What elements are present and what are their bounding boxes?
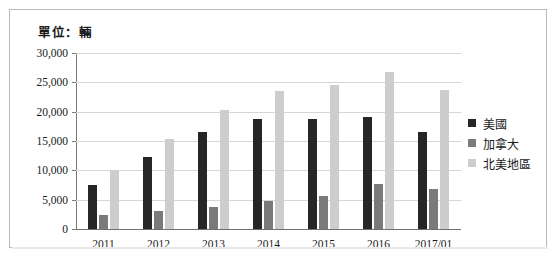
bar bbox=[198, 132, 207, 229]
y-axis-tick bbox=[72, 112, 76, 113]
y-axis-tick bbox=[72, 229, 76, 230]
bar-group: 2016 bbox=[363, 53, 394, 229]
chart-legend: 美國加拿大北美地區 bbox=[468, 114, 531, 174]
bar bbox=[88, 185, 97, 229]
legend-swatch-icon bbox=[468, 139, 476, 147]
legend-item: 加拿大 bbox=[468, 134, 531, 152]
x-axis-label: 2017/01 bbox=[399, 238, 469, 250]
bar-group: 2017/01 bbox=[418, 53, 449, 229]
unit-label: 單位：輛 bbox=[38, 22, 92, 41]
bar-group: 2014 bbox=[253, 53, 284, 229]
y-axis-tick bbox=[72, 53, 76, 54]
y-axis-label: 30,000 bbox=[36, 47, 68, 59]
bar bbox=[385, 72, 394, 229]
bar bbox=[319, 196, 328, 229]
legend-label: 美國 bbox=[483, 115, 507, 132]
bar-group: 2015 bbox=[308, 53, 339, 229]
bar-group: 2011 bbox=[88, 53, 119, 229]
bar bbox=[154, 211, 163, 229]
legend-item: 美國 bbox=[468, 114, 531, 132]
bar bbox=[165, 139, 174, 229]
y-axis-tick bbox=[72, 170, 76, 171]
bar bbox=[275, 91, 284, 229]
y-axis-label: 10,000 bbox=[36, 164, 68, 176]
y-axis-tick bbox=[72, 200, 76, 201]
bar-group: 2012 bbox=[143, 53, 174, 229]
bar bbox=[429, 189, 438, 229]
y-axis-label: 5,000 bbox=[42, 194, 68, 206]
bar bbox=[209, 207, 218, 229]
bar bbox=[363, 117, 372, 229]
legend-item: 北美地區 bbox=[468, 154, 531, 172]
bar bbox=[143, 157, 152, 229]
bar bbox=[253, 119, 262, 229]
bar bbox=[99, 215, 108, 229]
bar-group: 2013 bbox=[198, 53, 229, 229]
y-axis-label: 15,000 bbox=[36, 135, 68, 147]
y-axis-label: 20,000 bbox=[36, 106, 68, 118]
y-axis-tick bbox=[72, 141, 76, 142]
y-axis-label: 0 bbox=[62, 223, 68, 235]
chart-frame: 單位：輛 30,00025,00020,00015,00010,0005,000… bbox=[9, 9, 547, 248]
bar bbox=[374, 184, 383, 229]
legend-swatch-icon bbox=[468, 119, 476, 127]
bar bbox=[110, 170, 119, 229]
legend-label: 北美地區 bbox=[483, 155, 531, 172]
plot-area: 30,00025,00020,00015,00010,0005,0000 201… bbox=[76, 53, 461, 229]
bar bbox=[418, 132, 427, 229]
bar bbox=[440, 90, 449, 229]
bar bbox=[264, 201, 273, 229]
bar bbox=[308, 119, 317, 229]
y-axis-label: 25,000 bbox=[36, 76, 68, 88]
y-axis-tick bbox=[72, 82, 76, 83]
legend-swatch-icon bbox=[468, 159, 476, 167]
bar bbox=[220, 110, 229, 229]
x-axis-line bbox=[76, 229, 461, 230]
bar bbox=[330, 85, 339, 229]
legend-label: 加拿大 bbox=[483, 135, 519, 152]
